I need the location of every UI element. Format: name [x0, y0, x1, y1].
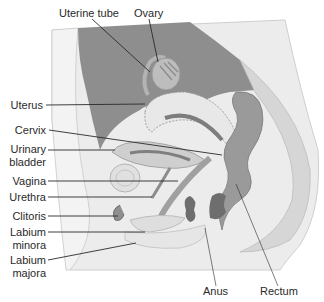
- label-vagina: Vagina: [13, 175, 46, 187]
- label-labium-minora-2: minora: [12, 239, 46, 251]
- anatomy-diagram: Uterine tube Ovary Uterus Cervix Urinary…: [0, 0, 324, 302]
- label-uterus: Uterus: [11, 99, 43, 111]
- label-labium-majora-2: majora: [12, 267, 46, 279]
- label-urinary-bladder-1: Urinary: [11, 143, 46, 155]
- pubic-bone: [110, 164, 140, 192]
- label-clitoris: Clitoris: [12, 210, 46, 222]
- label-rectum: Rectum: [260, 285, 298, 297]
- anatomy-illustration: [0, 0, 324, 302]
- label-urethra: Urethra: [9, 191, 46, 203]
- label-labium-majora-1: Labium: [10, 254, 46, 266]
- label-ovary: Ovary: [134, 7, 163, 19]
- label-uterine-tube: Uterine tube: [59, 7, 119, 19]
- ovary-shape: [152, 58, 180, 90]
- label-anus: Anus: [203, 285, 228, 297]
- label-cervix: Cervix: [15, 124, 46, 136]
- label-urinary-bladder-2: bladder: [9, 156, 46, 168]
- anal-sphincter-right: [209, 193, 226, 219]
- label-labium-minora-1: Labium: [10, 226, 46, 238]
